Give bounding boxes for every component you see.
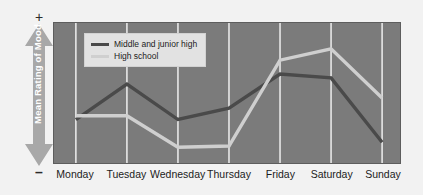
x-axis-label: Sunday [365,168,401,180]
chart-figure: + Mean Rating of Mood – Middle and junio… [0,0,423,195]
x-axis-label: Monday [56,168,93,180]
legend-label-middle-junior-high: Middle and junior high [114,39,197,49]
y-axis-group: + Mean Rating of Mood – [22,10,56,180]
y-axis-negative-marker: – [22,166,56,180]
chart-legend: Middle and junior high High school [84,33,206,67]
plot-area: Middle and junior high High school [53,22,401,164]
x-axis-label: Wednesday [150,168,205,180]
legend-swatch-high-school [91,55,109,58]
x-axis-label: Friday [266,168,295,180]
x-axis-label: Saturday [311,168,353,180]
x-axis-labels: MondayTuesdayWednesdayThursdayFridaySatu… [53,168,401,188]
legend-item: Middle and junior high [91,38,197,50]
x-axis-label: Thursday [207,168,251,180]
x-axis-label: Tuesday [106,168,146,180]
y-axis-title: Mean Rating of Mood [32,9,48,139]
legend-swatch-middle-junior-high [91,43,109,46]
legend-label-high-school: High school [114,51,158,61]
legend-item: High school [91,50,197,62]
